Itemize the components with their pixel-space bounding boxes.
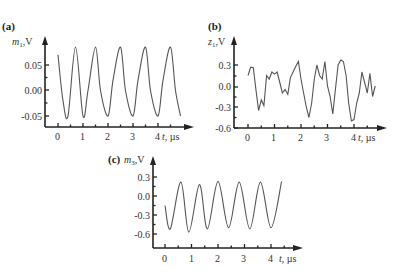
panel-b-xtick-label: 2 <box>298 132 303 143</box>
panel-b-ytick-label: -0.3 <box>215 102 231 113</box>
panel-a-ytick-label: 0.00 <box>25 85 43 96</box>
panel-c-xtick-label: 1 <box>189 253 194 264</box>
panel-c-ytick-label: -0.3 <box>134 210 150 221</box>
panel-a-xtick-label: 0 <box>55 131 60 142</box>
panel-a-ytick-label: 0.05 <box>25 60 43 71</box>
panel-c: (c) m3,V 0 1 2 3 4 t, µs 0.3 0.0 -0.3 -0… <box>108 153 303 264</box>
panel-a: (a) m1,V 0 1 2 3 4 t, µs 0.05 0.00 -0.05 <box>2 20 194 142</box>
panel-b-ytick-label: 0.0 <box>219 81 232 92</box>
panel-a-xtick-label: 2 <box>105 131 110 142</box>
panel-a-series-line <box>58 47 181 119</box>
panel-c-x-axis-title: t, µs <box>279 253 297 264</box>
panel-c-ticks <box>153 177 284 248</box>
panel-b-y-axis-title: z1,V <box>207 36 226 49</box>
panel-a-ytick-label: -0.05 <box>21 111 42 122</box>
panel-b-ytick-label: 0.3 <box>219 60 232 71</box>
panel-b-xtick-label: 4 <box>351 132 356 143</box>
panel-a-y-axis-title: m1,V <box>12 36 33 49</box>
panel-a-xtick-label: 3 <box>130 131 135 142</box>
panel-c-y-axis-title: m3,V <box>124 154 145 167</box>
panel-b-label: (b) <box>208 20 222 33</box>
panel-c-y-arrow-icon <box>150 156 156 165</box>
panel-c-xtick-label: 4 <box>268 253 273 264</box>
panel-c-axes <box>150 156 303 251</box>
panel-b-xtick-label: 0 <box>245 132 250 143</box>
panel-b: (b) z1,V 0 1 2 3 4 t, µs 0.3 0.0 -0.3 -0… <box>207 20 387 143</box>
panel-a-xtick-label: 4 <box>155 131 160 142</box>
panel-c-ytick-label: -0.6 <box>134 229 150 240</box>
panel-a-y-arrow-icon <box>42 36 48 45</box>
panel-a-xtick-label: 1 <box>80 131 85 142</box>
panel-c-xtick-label: 2 <box>215 253 220 264</box>
panel-b-series-line <box>248 60 375 121</box>
panel-b-xtick-label: 3 <box>324 132 329 143</box>
panel-c-ytick-label: 0.0 <box>138 191 151 202</box>
panel-c-x-arrow-icon <box>293 245 303 251</box>
panel-b-ytick-label: -0.6 <box>215 123 231 134</box>
panel-c-ytick-label: 0.3 <box>138 172 151 183</box>
panel-b-y-arrow-icon <box>231 36 237 45</box>
panel-c-xtick-label: 0 <box>162 253 167 264</box>
figure: (a) m1,V 0 1 2 3 4 t, µs 0.05 0.00 -0.05… <box>0 0 400 275</box>
panel-b-xtick-label: 1 <box>271 132 276 143</box>
panel-a-label: (a) <box>2 20 15 33</box>
panel-c-tick-labels: 0 1 2 3 4 t, µs 0.3 0.0 -0.3 -0.6 <box>134 172 296 264</box>
panel-b-x-arrow-icon <box>377 125 387 131</box>
panel-c-xtick-label: 3 <box>241 253 246 264</box>
panel-b-tick-labels: 0 1 2 3 4 t, µs 0.3 0.0 -0.3 -0.6 <box>215 60 375 143</box>
panel-a-x-axis-title: t, µs <box>162 131 180 142</box>
panel-a-x-arrow-icon <box>184 124 194 130</box>
panel-c-series-line <box>165 181 282 232</box>
panel-b-x-axis-title: t, µs <box>358 132 376 143</box>
panel-c-label: (c) <box>108 153 121 166</box>
